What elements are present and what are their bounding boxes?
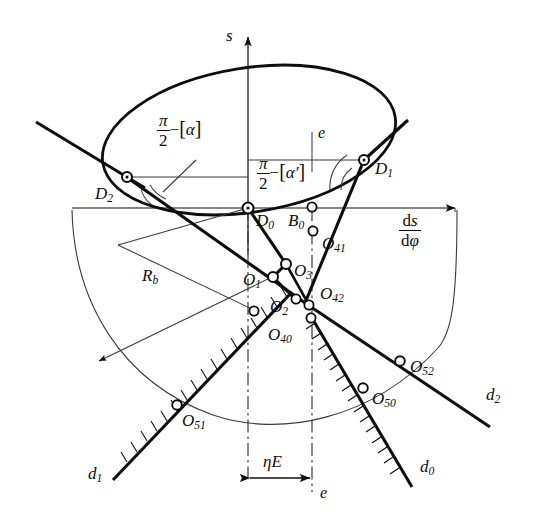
label-O52: O52 (410, 358, 434, 378)
ds-numerator-d: d (402, 211, 411, 230)
alpha-angle-leader (163, 160, 196, 192)
alpha-minus: − (170, 120, 180, 139)
ds-numerator-s: s (411, 211, 418, 230)
joint-O51 (172, 400, 182, 410)
alphaprime-bracket-close: ] (298, 160, 305, 182)
label-O50: O50 (372, 390, 396, 410)
alpha-symbol: α (186, 120, 195, 139)
joint-O50 (358, 383, 368, 393)
label-O40: O40 (268, 326, 292, 346)
label-D0: D0 (256, 212, 274, 232)
center-lines-group (248, 208, 312, 492)
joint-O2 (291, 294, 300, 303)
label-O1: O1 (243, 271, 261, 291)
joint-d1-upper (249, 306, 258, 315)
line-d0-upper (364, 120, 408, 160)
angle-label-alpha-prime: π 2 −[α′] (257, 155, 305, 193)
label-O41: O41 (322, 235, 346, 255)
joint-O3 (281, 259, 291, 269)
label-O2: O2 (270, 298, 288, 318)
label-d1: d1 (88, 465, 102, 485)
angle-label-alpha: π 2 −[α] (157, 112, 201, 150)
joint-D0 (243, 203, 254, 214)
alphaprime-minus: − (270, 163, 280, 182)
label-D1: D1 (375, 160, 393, 180)
joint-markers-group (122, 155, 405, 410)
label-O3: O3 (294, 262, 312, 282)
joint-O42 (304, 300, 313, 309)
label-Rb: Rb (142, 267, 158, 287)
dphi-denominator-d: d (401, 231, 410, 250)
alphaprime-pi: π (257, 155, 270, 174)
e-label-top: e (318, 125, 325, 141)
label-D2: D2 (95, 185, 113, 205)
label-d2: d2 (486, 386, 500, 406)
alphaprime-symbol: α′ (286, 163, 299, 182)
alpha-two: 2 (157, 131, 170, 149)
hatch-d1 (121, 287, 287, 462)
joint-D1 (359, 155, 369, 165)
joint-O1 (268, 272, 278, 282)
joint-O41 (308, 226, 317, 235)
alpha-bracket-close: ] (195, 117, 202, 139)
joint-O40 (306, 313, 315, 322)
joint-D2 (122, 172, 132, 182)
s-axis-label: s (226, 27, 233, 44)
dphi-denominator-phi: φ (410, 231, 419, 250)
alphaprime-two: 2 (257, 174, 270, 192)
alphaprime-bracket-open: [ (279, 160, 286, 182)
dsdphi-axis-label: ds dφ (399, 212, 421, 250)
label-O51: O51 (182, 412, 206, 432)
alpha-pi: π (157, 112, 170, 131)
joint-O52 (395, 356, 405, 366)
alpha-bracket-open: [ (179, 117, 186, 139)
figure-canvas: s ds dφ π 2 −[α] π 2 −[α′] e e D1 D2 D0 … (0, 0, 535, 532)
joint-B0 (307, 202, 316, 211)
e-label-bottom: e (320, 485, 327, 501)
label-d0: d0 (420, 458, 434, 478)
label-etaE: ηE (263, 453, 282, 470)
label-B0: B0 (288, 212, 304, 232)
hatching-group (121, 287, 399, 474)
label-O42: O42 (320, 285, 344, 305)
